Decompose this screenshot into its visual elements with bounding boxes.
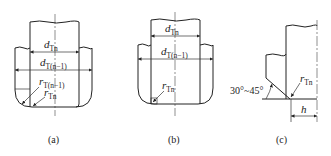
label-r-outer-a: rT(n−1) [39,75,65,90]
panel-a: dTn dT(n−1) rT(n−1) rTn (a) [15,14,92,146]
label-angle-c: 30°~45° [230,85,263,96]
label-h-c: h [301,103,307,115]
label-dtn-b: dTn [165,22,179,37]
label-dtn1-a: dT(n−1) [40,56,67,71]
caption-c: (c) [276,134,287,146]
panel-c: 30°~45° rTn h (c) [230,20,317,146]
panel-b: dTn dT(n−1) rTn (b) [138,12,213,146]
leader-r-inner-a [33,97,45,106]
leader-r-b [153,91,164,102]
caption-b: (b) [168,134,180,146]
label-dtn-a: dTn [44,38,58,53]
caption-a: (a) [48,134,59,146]
label-r-c: rTn [300,72,313,87]
punch-diagram: dTn dT(n−1) rT(n−1) rTn (a) dTn dT(n−1) … [0,0,331,156]
label-r-b: rTn [162,79,175,94]
angle-arc-c [266,84,272,99]
inner-wall-outline-c [286,25,317,99]
leader-r-c [291,83,300,97]
label-dtn1-b: dT(n−1) [161,45,188,60]
